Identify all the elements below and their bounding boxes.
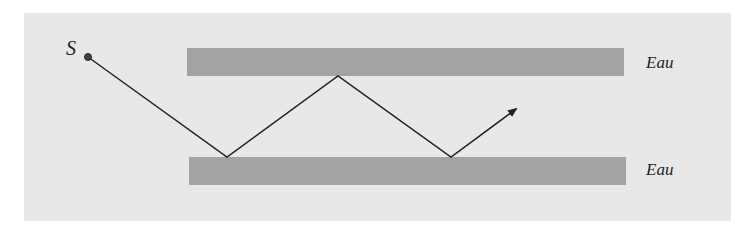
source-point-icon <box>85 54 92 61</box>
water-label-bottom: Eau <box>646 160 673 180</box>
water-label-top: Eau <box>646 53 673 73</box>
reflected-ray <box>88 57 516 157</box>
source-label: S <box>66 37 76 60</box>
ray-diagram <box>0 0 753 234</box>
